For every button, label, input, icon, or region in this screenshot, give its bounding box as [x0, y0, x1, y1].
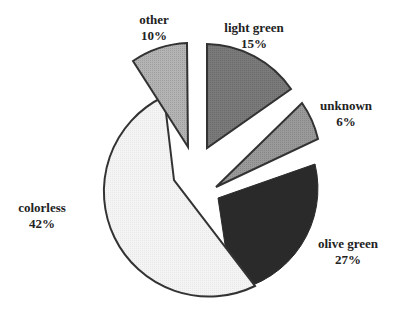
pie-chart: light green 15% unknown 6% olive green 2…: [0, 0, 395, 309]
label-olive-green-pct: 27%: [335, 252, 361, 267]
label-unknown-pct: 6%: [336, 114, 356, 129]
label-other-pct: 10%: [141, 28, 167, 43]
label-colorless-pct: 42%: [29, 216, 55, 231]
label-unknown: unknown: [320, 98, 373, 113]
label-light-green: light green: [224, 20, 284, 35]
label-colorless: colorless: [18, 200, 66, 215]
label-other: other: [139, 12, 169, 27]
label-olive-green: olive green: [318, 236, 379, 251]
label-light-green-pct: 15%: [241, 36, 267, 51]
